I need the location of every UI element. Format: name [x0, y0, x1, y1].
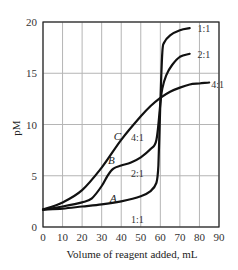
x-tick-label: 0 [40, 231, 46, 243]
curve-label: B [108, 154, 115, 166]
y-tick-label: 10 [26, 119, 38, 131]
ratio-label: 1:1 [131, 214, 144, 225]
grid-lines [43, 22, 219, 227]
curves [43, 28, 209, 209]
curve-label: A [109, 192, 117, 204]
x-axis-label: Volume of reagent added, mL [67, 248, 198, 260]
x-tick-label: 70 [174, 231, 186, 243]
x-tick-label: 90 [214, 231, 226, 243]
y-tick-label: 20 [26, 16, 38, 28]
x-tick-label: 10 [57, 231, 69, 243]
x-tick-label: 80 [194, 231, 206, 243]
x-tick-label: 40 [116, 231, 128, 243]
ratio-label: 2:1 [131, 168, 144, 179]
ratio-label: 2:1 [197, 49, 210, 60]
y-axis-label: pM [10, 120, 22, 136]
x-tick-label: 30 [96, 231, 108, 243]
curve-label: C [114, 130, 122, 142]
ratio-label: 1:1 [197, 23, 210, 34]
y-tick-label: 5 [32, 170, 38, 182]
y-tick-label: 15 [26, 67, 38, 79]
y-tick-label: 0 [32, 221, 38, 233]
ratio-label: 4:1 [131, 132, 144, 143]
titration-chart: 010203040506070809005101520 C4:1B2:1A1:1… [0, 0, 238, 270]
ratio-label: 4:1 [211, 79, 224, 90]
x-tick-label: 20 [77, 231, 89, 243]
curve-a [43, 28, 190, 209]
annotations: C4:1B2:1A1:11:12:14:1 [108, 23, 224, 225]
curve-c [43, 83, 209, 210]
x-tick-label: 60 [155, 231, 167, 243]
x-tick-label: 50 [135, 231, 147, 243]
